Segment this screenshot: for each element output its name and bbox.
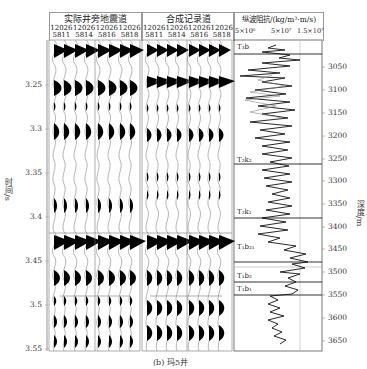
formation-label: T₃b <box>237 43 249 51</box>
depth-axis-label: 深度/m <box>354 200 365 226</box>
time-tick: 3.55 <box>12 344 42 353</box>
figure-plot <box>0 0 367 369</box>
time-tick: 3.25 <box>12 80 42 89</box>
figure-caption: (b) 玛5井 <box>153 356 188 367</box>
depth-tick: 3400 <box>328 222 347 231</box>
depth-tick: 3600 <box>328 313 347 322</box>
depth-tick: 3500 <box>328 267 347 276</box>
formation-label: T₁b₁ <box>237 285 252 293</box>
depth-tick: 3300 <box>328 176 347 185</box>
time-axis-label: 时间/s <box>2 178 13 201</box>
depth-tick: 3450 <box>328 244 347 253</box>
formation-label: T₂k₁ <box>237 208 252 216</box>
depth-tick: 3350 <box>328 199 347 208</box>
time-tick: 3.35 <box>12 168 42 177</box>
depth-tick: 3150 <box>328 108 347 117</box>
time-tick: 3.45 <box>12 256 42 265</box>
formation-label: T₂k₂ <box>237 156 252 164</box>
formation-label: T₁b₂₁ <box>237 243 255 251</box>
depth-tick: 3200 <box>328 131 347 140</box>
time-tick: 3.4 <box>12 212 42 221</box>
formation-label: T₁b₂ <box>237 272 252 280</box>
depth-tick: 3550 <box>328 290 347 299</box>
depth-tick: 3250 <box>328 154 347 163</box>
impedance-curve <box>240 45 308 344</box>
time-tick: 3.3 <box>12 124 42 133</box>
depth-tick: 3650 <box>328 336 347 345</box>
depth-tick: 3050 <box>328 62 347 71</box>
depth-tick: 3100 <box>328 85 347 94</box>
time-tick: 3.5 <box>12 300 42 309</box>
